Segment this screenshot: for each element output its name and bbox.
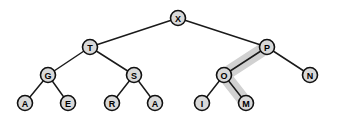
- node-label-x: X: [175, 14, 181, 24]
- binary-tree-diagram: XTPGSONAERAIM: [0, 0, 338, 125]
- node-label-t: T: [87, 43, 93, 53]
- tree-node-m[interactable]: M: [239, 96, 254, 111]
- tree-canvas: XTPGSONAERAIM: [0, 0, 338, 125]
- tree-node-r[interactable]: R: [105, 96, 120, 111]
- tree-node-p[interactable]: P: [260, 40, 275, 55]
- tree-node-e[interactable]: E: [61, 96, 76, 111]
- tree-node-a2[interactable]: A: [148, 96, 163, 111]
- node-label-i: I: [201, 99, 204, 109]
- tree-node-t[interactable]: T: [83, 40, 98, 55]
- node-label-a2: A: [152, 99, 159, 109]
- tree-node-g[interactable]: G: [41, 68, 56, 83]
- tree-edges: [25, 18, 310, 103]
- tree-edge-x-p: [178, 18, 267, 47]
- node-label-g: G: [44, 71, 51, 81]
- node-label-r: R: [109, 99, 116, 109]
- tree-edge-x-t: [90, 18, 178, 47]
- node-label-e: E: [65, 99, 71, 109]
- node-label-m: M: [242, 99, 250, 109]
- tree-node-x[interactable]: X: [171, 11, 186, 26]
- tree-node-n[interactable]: N: [303, 68, 318, 83]
- node-label-o: O: [220, 71, 227, 81]
- tree-node-i[interactable]: I: [195, 96, 210, 111]
- node-label-n: N: [307, 71, 314, 81]
- node-label-p: P: [264, 43, 270, 53]
- node-label-a1: A: [22, 99, 29, 109]
- node-label-s: S: [131, 71, 137, 81]
- tree-node-s[interactable]: S: [127, 68, 142, 83]
- tree-node-o[interactable]: O: [217, 68, 232, 83]
- tree-node-a1[interactable]: A: [18, 96, 33, 111]
